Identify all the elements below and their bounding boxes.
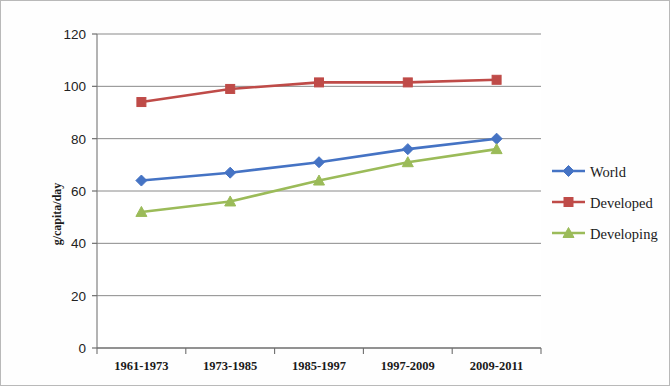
data-point-developed-1 (226, 84, 235, 93)
y-axis-title: g/capita/day (50, 183, 64, 246)
x-tick-label-1: 1973-1985 (203, 359, 257, 373)
y-tick-label-20: 20 (71, 289, 86, 304)
legend-item-developing[interactable]: Developing (552, 226, 658, 242)
legend-item-world[interactable]: World (552, 164, 627, 180)
data-point-developed-0 (137, 98, 146, 107)
x-tick-label-3: 1997-2009 (381, 359, 435, 373)
x-axis-ticks (97, 348, 541, 354)
legend-marker-square-icon (564, 198, 573, 207)
legend-label-1: Developed (590, 195, 654, 211)
y-tick-label-0: 0 (78, 341, 86, 356)
chart-figure: 020406080100120 1961-19731973-19851985-1… (0, 0, 670, 386)
chart-legend: WorldDevelopedDeveloping (552, 164, 658, 242)
y-axis-ticks (92, 34, 97, 348)
y-tick-label-120: 120 (63, 27, 86, 42)
x-axis-tick-labels: 1961-19731973-19851985-19971997-20092009… (114, 359, 523, 373)
legend-label-2: Developing (590, 226, 658, 242)
legend-label-0: World (590, 164, 627, 180)
data-point-developed-4 (492, 75, 501, 84)
y-tick-label-100: 100 (63, 79, 86, 94)
x-tick-label-0: 1961-1973 (114, 359, 168, 373)
y-tick-label-40: 40 (71, 236, 86, 251)
y-tick-label-60: 60 (71, 184, 86, 199)
x-tick-label-4: 2009-2011 (470, 359, 523, 373)
data-point-developed-2 (315, 78, 324, 87)
line-chart: 020406080100120 1961-19731973-19851985-1… (1, 1, 670, 386)
legend-marker-diamond-icon (563, 166, 574, 177)
y-tick-label-80: 80 (71, 132, 86, 147)
x-tick-label-2: 1985-1997 (292, 359, 346, 373)
data-point-developed-3 (403, 78, 412, 87)
legend-item-developed[interactable]: Developed (552, 195, 654, 211)
y-axis-tick-labels: 020406080100120 (63, 27, 86, 356)
